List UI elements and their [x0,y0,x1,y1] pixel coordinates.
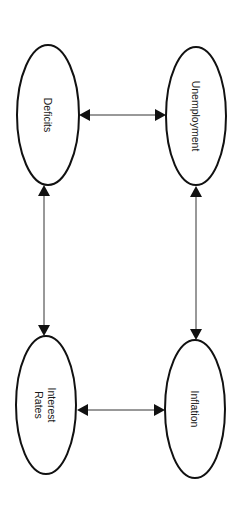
arrowhead-down-icon [190,329,202,340]
node-inflation: Inflation [165,340,225,478]
edge-deficits-interest-rates [38,185,50,336]
node-deficits: Deficits [17,45,79,185]
arrowhead-left-icon [79,109,90,121]
arrowhead-right-icon [155,109,166,121]
node-unemployment: Unemployment [166,47,226,185]
node-label: Deficits [42,98,54,132]
arrowhead-up-icon [190,186,202,197]
arrowhead-right-icon [154,404,165,416]
node-interest-rates: Interest Rates [16,336,76,474]
arrowhead-up-icon [38,185,50,196]
causal-diagram: Deficits Unemployment Interest Rates Inf… [0,0,240,522]
edge-unemployment-inflation [190,186,202,340]
arrowhead-left-icon [77,404,88,416]
node-label: Inflation [189,391,201,428]
node-label-line-2: Rates [33,391,45,418]
arrowhead-down-icon [38,325,50,336]
node-label: Unemployment [190,81,202,152]
ellipse-shape [16,336,76,474]
node-label-line-1: Interest [46,387,58,422]
edge-interest-rates-inflation [77,404,165,416]
edge-deficits-unemployment [79,109,166,121]
